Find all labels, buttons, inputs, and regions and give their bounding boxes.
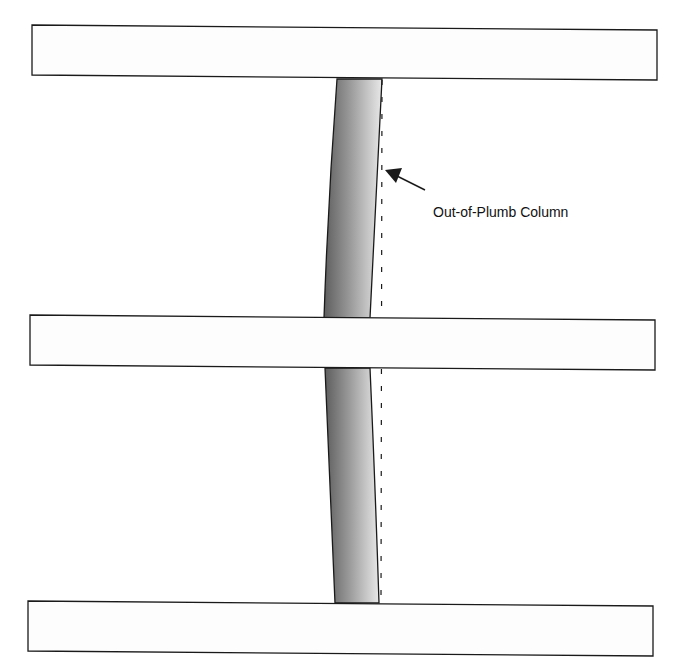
upper-column-segment xyxy=(324,79,382,318)
out-of-plumb-diagram: Out-of-Plumb Column xyxy=(0,0,673,671)
lower-column-segment xyxy=(325,368,379,603)
top-beam xyxy=(32,25,657,80)
bottom-beam xyxy=(28,601,653,656)
callout-arrow-icon xyxy=(385,168,425,190)
column-label: Out-of-Plumb Column xyxy=(433,204,568,220)
middle-beam xyxy=(30,315,655,370)
